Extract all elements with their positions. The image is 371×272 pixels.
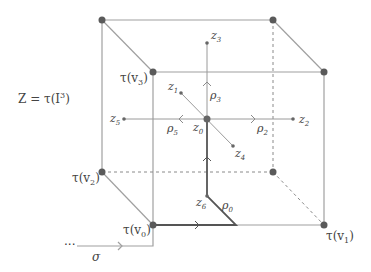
label-z6: z6 bbox=[195, 196, 207, 211]
label-rho0: ρ0 bbox=[221, 199, 233, 214]
sigma-label: σ bbox=[92, 250, 101, 264]
cube-edges bbox=[102, 20, 324, 225]
label-v1: τ(v1) bbox=[326, 229, 354, 245]
sigma-dots: ··· bbox=[64, 238, 75, 252]
label-z5: z5 bbox=[109, 112, 121, 127]
label-v3: τ(v3) bbox=[120, 71, 148, 87]
label-rho2: ρ2 bbox=[256, 122, 268, 137]
vertex-dots bbox=[99, 17, 328, 229]
cube-diagram: ··· σ Z = τ(I3) τ(v3) τ(v2) τ(v0) τ(v1) … bbox=[0, 0, 371, 272]
label-z4: z4 bbox=[234, 147, 245, 162]
hidden-edges bbox=[102, 20, 324, 225]
title-label: Z = τ(I3) bbox=[18, 91, 70, 106]
label-z2: z2 bbox=[298, 113, 310, 128]
label-v2: τ(v2) bbox=[72, 171, 100, 187]
label-z3: z3 bbox=[210, 29, 222, 44]
label-z0: z0 bbox=[192, 121, 204, 136]
rho0-arrows bbox=[195, 157, 211, 229]
label-z1: z1 bbox=[167, 80, 178, 95]
label-rho5: ρ5 bbox=[166, 122, 178, 137]
label-rho3: ρ3 bbox=[209, 89, 221, 104]
label-v0: τ(v0) bbox=[123, 223, 151, 239]
